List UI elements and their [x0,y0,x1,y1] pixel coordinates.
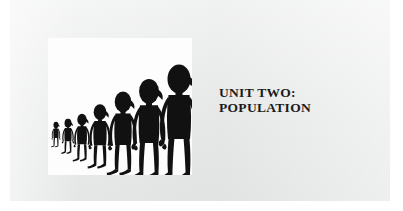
page-title-line-1: UNIT TWO: [219,85,369,100]
population-figures-illustration [48,38,192,175]
illustration-panel [48,38,192,175]
page-title-line-2: POPULATION [219,100,369,115]
slide-page: UNIT TWO: POPULATION [0,0,403,211]
page-title: UNIT TWO: POPULATION [219,85,369,115]
